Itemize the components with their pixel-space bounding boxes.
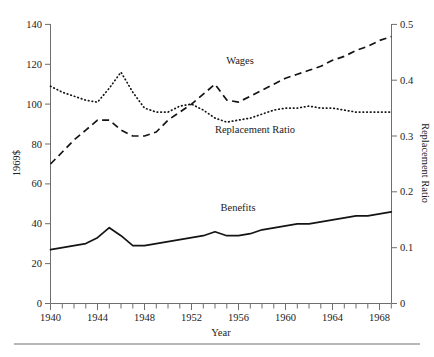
- series-group: [51, 37, 392, 250]
- figure-container: 0 20 40 60 80 100 120 140 0 0.1 0.2 0.3 …: [0, 0, 434, 357]
- left-tick-label-120: 120: [26, 59, 42, 70]
- axes-frame: [51, 24, 392, 304]
- series-replacement-ratio: [51, 72, 392, 122]
- left-tick-label-20: 20: [32, 258, 43, 269]
- left-tick-label-60: 60: [32, 178, 43, 189]
- series-annotations: Wages Replacement Ratio Benefits: [215, 55, 295, 213]
- x-tick-label-1940: 1940: [40, 312, 61, 323]
- right-tick-label-0: 0: [400, 298, 405, 309]
- left-tick-label-0: 0: [37, 298, 42, 309]
- annotation-wages: Wages: [226, 55, 254, 66]
- right-tick-label-0-4: 0.4: [400, 75, 414, 86]
- x-axis-ticks: 1940 1944 1948 1952 1956 1960 1964 1968: [40, 304, 391, 324]
- x-tick-label-1956: 1956: [228, 312, 249, 323]
- x-tick-label-1948: 1948: [134, 312, 155, 323]
- left-tick-label-140: 140: [26, 19, 42, 30]
- y-axis-title: 1969$: [11, 150, 22, 176]
- left-tick-label-40: 40: [32, 218, 43, 229]
- left-axis-ticks: 0 20 40 60 80 100 120 140: [26, 19, 50, 309]
- x-tick-label-1964: 1964: [322, 312, 344, 323]
- right-axis-ticks: 0 0.1 0.2 0.3 0.4 0.5: [392, 19, 414, 309]
- annotation-replacement-ratio: Replacement Ratio: [215, 124, 295, 135]
- x-tick-label-1944: 1944: [87, 312, 109, 323]
- left-tick-label-80: 80: [32, 139, 43, 150]
- left-tick-label-100: 100: [26, 99, 42, 110]
- right-tick-label-0-3: 0.3: [400, 131, 413, 142]
- x-axis-title: Year: [211, 327, 231, 338]
- right-tick-label-0-1: 0.1: [400, 242, 413, 253]
- series-wages: [51, 37, 392, 165]
- series-benefits: [51, 212, 392, 250]
- y2-axis-title: Replacement Ratio: [420, 123, 431, 203]
- right-tick-label-0-2: 0.2: [400, 186, 413, 197]
- annotation-benefits: Benefits: [221, 202, 256, 213]
- x-tick-label-1960: 1960: [275, 312, 296, 323]
- x-tick-label-1952: 1952: [181, 312, 202, 323]
- right-tick-label-0-5: 0.5: [400, 19, 413, 30]
- x-tick-label-1968: 1968: [369, 312, 390, 323]
- chart-canvas: 0 20 40 60 80 100 120 140 0 0.1 0.2 0.3 …: [0, 0, 434, 357]
